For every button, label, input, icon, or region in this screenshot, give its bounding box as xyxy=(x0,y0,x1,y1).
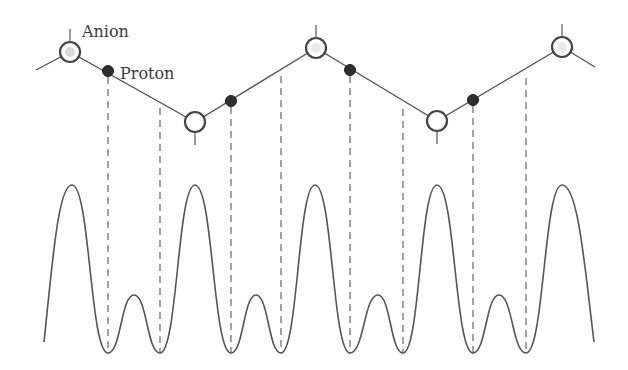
proton-node xyxy=(345,65,356,76)
proton-node xyxy=(468,95,479,106)
anion-node xyxy=(427,111,447,131)
potential-energy-curve xyxy=(44,185,594,353)
dashed-projection-lines xyxy=(108,76,526,353)
anion-shading xyxy=(65,47,75,57)
proton-node xyxy=(103,66,114,77)
proton-node xyxy=(226,96,237,107)
anion-label: Anion xyxy=(81,22,129,41)
anion-shading xyxy=(557,42,567,52)
proton-label: Proton xyxy=(120,64,174,83)
proton-conduction-diagram: Anion Proton xyxy=(0,0,628,370)
anion-nodes xyxy=(60,37,572,132)
anion-node xyxy=(185,112,205,132)
anion-shading xyxy=(311,43,321,53)
